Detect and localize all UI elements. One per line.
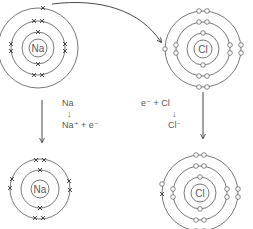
sodium-nucleus-label: Na [32,43,45,54]
sodium-eq-line1: Na [62,98,74,108]
chloride-ion: Cl [160,153,241,229]
chloride-ion-nucleus-label: Cl [195,188,204,199]
sodium-eq-arrow: ↓ [67,109,72,119]
chlorine-eq-line1: e⁻ + Cl [141,98,170,108]
sodium-atom: Na [0,6,78,88]
ionic-bond-diagram: Na Cl Na ↓ Na⁺ + e⁻ e⁻ + Cl [0,0,253,229]
sodium-ion: Na [8,158,72,220]
sodium-ion-nucleus-label: Na [34,184,47,195]
chlorine-atom: Cl [163,9,244,90]
chlorine-eq-arrow: ↓ [172,109,177,119]
sodium-equation: Na ↓ Na⁺ + e⁻ [62,98,99,130]
chlorine-nucleus-label: Cl [198,44,207,55]
sodium-eq-line2: Na⁺ + e⁻ [62,120,99,130]
chlorine-eq-line2: Cl⁻ [168,120,182,130]
chlorine-equation: e⁻ + Cl ↓ Cl⁻ [141,98,182,130]
